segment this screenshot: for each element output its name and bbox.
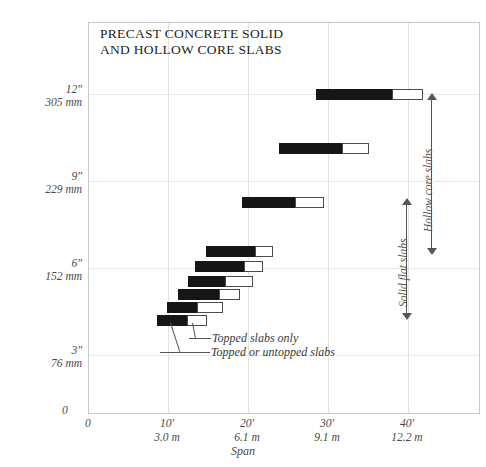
bar-segment-topped-only [197,302,223,313]
bar-12in [316,89,423,100]
x-tick-20ft: 20'6.1 m [212,417,282,444]
leader-line-topped-or-untopped-horiz [160,352,210,353]
bar-3-6in [157,315,207,326]
x-axis-title: Span [0,444,486,459]
y-tick-9in: 9"229 mm [0,170,82,196]
arrow-head-down-icon [427,248,437,255]
bar-4-9in [178,289,240,300]
x-tick-30ft: 30'9.1 m [292,417,362,444]
bar-segment-topped-or-untopped [188,276,225,287]
y-tick-zero: 0 [62,404,68,416]
bar-segment-topped-only [219,289,240,300]
chart-title: PRECAST CONCRETE SOLID AND HOLLOW CORE S… [100,26,283,57]
arrow-head-down-icon [402,313,412,320]
bar-segment-topped-only [295,197,324,208]
x-tick-zero: 0 [85,417,91,429]
solid-flat-range-label: Solid flat slabs [397,239,409,307]
callout-topped-slabs-only: Topped slabs only [212,331,298,346]
callout-topped-or-untopped-slabs: Topped or untopped slabs [211,345,335,360]
bar-4-4in [167,302,223,313]
leader-line-topped-only-horiz [189,338,211,339]
bar-5-4in [188,276,253,287]
hollow-core-range-label: Hollow core slabs [422,149,434,232]
gridline-y-9in [89,181,479,182]
bar-segment-topped-only [187,315,207,326]
bar-segment-topped-or-untopped [167,302,197,313]
bar-segment-topped-only [342,143,369,154]
bar-10in [279,143,369,154]
gridline-y-6in [89,268,479,269]
bar-segment-topped-or-untopped [316,89,392,100]
bar-segment-topped-or-untopped [178,289,219,300]
bar-segment-topped-or-untopped [279,143,342,154]
x-tick-10ft: 10'3.0 m [132,417,202,444]
x-tick-40ft: 40'12.2 m [372,417,442,444]
bar-segment-topped-or-untopped [195,261,244,272]
y-tick-6in: 6"152 mm [0,257,82,283]
y-tick-3in: 3"76 mm [0,344,82,370]
bar-segment-topped-only [255,246,273,257]
bar-8in [242,197,324,208]
bar-segment-topped-only [225,276,253,287]
y-axis-title: Depth of slab [0,58,1,178]
bar-6-4in [206,246,273,257]
bar-5-9in [195,261,263,272]
bar-segment-topped-only [392,89,423,100]
bar-segment-topped-only [244,261,263,272]
chart-canvas: PRECAST CONCRETE SOLID AND HOLLOW CORE S… [0,0,486,467]
bar-segment-topped-or-untopped [206,246,255,257]
bar-segment-topped-or-untopped [242,197,295,208]
bar-segment-topped-or-untopped [157,315,187,326]
y-tick-12in: 12"305 mm [0,83,82,109]
